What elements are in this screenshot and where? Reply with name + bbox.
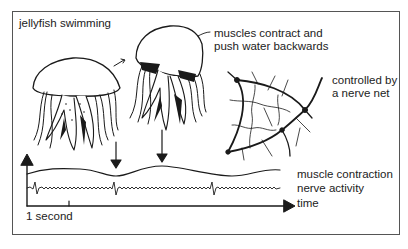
figure-title: jellyfish swimming — [19, 17, 111, 30]
muscles-annotation-line1: muscles contract and — [214, 27, 323, 40]
y-axis — [21, 154, 33, 206]
nerve-net-illustration — [226, 72, 322, 160]
jellyfish-contracted-illustration — [114, 26, 210, 130]
nerve-activity-label: nerve activity — [297, 182, 364, 195]
time-label: time — [297, 197, 319, 210]
muscle-contraction-trace — [27, 166, 280, 176]
contraction-arrows — [111, 130, 167, 168]
nerve-activity-trace — [27, 182, 280, 195]
muscle-contraction-label: muscle contraction — [297, 168, 393, 181]
jellyfish-relaxed-illustration — [33, 58, 120, 150]
nerve-net-annotation-line1: controlled by — [332, 74, 397, 87]
muscles-annotation-line2: push water backwards — [214, 40, 328, 53]
time-scale-label: 1 second — [26, 210, 73, 223]
nerve-net-annotation-line2: a nerve net — [332, 87, 390, 100]
